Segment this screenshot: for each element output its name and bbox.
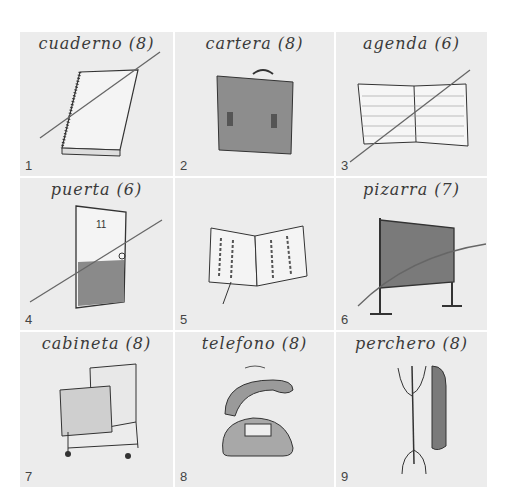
file-cabinet-icon bbox=[20, 332, 173, 487]
cell-notebook: cuaderno (8) 1 bbox=[20, 32, 173, 176]
cell-file-cabinet: cabineta (8) 7 bbox=[20, 332, 173, 487]
cell-planner: agenda (6) 3 bbox=[336, 32, 487, 176]
telephone-icon bbox=[175, 332, 334, 487]
cell-coat-rack: perchero (8) 9 bbox=[336, 332, 487, 487]
svg-text:11: 11 bbox=[96, 219, 107, 230]
cell-telephone: telefono (8) 8 bbox=[175, 332, 334, 487]
cell-number: 4 bbox=[25, 312, 32, 327]
cell-number: 1 bbox=[25, 158, 32, 173]
cell-number: 5 bbox=[180, 312, 187, 327]
cell-chalkboard: pizarra (7) 6 bbox=[336, 178, 487, 330]
cell-number: 6 bbox=[341, 312, 348, 327]
cell-open-book: 5 bbox=[175, 178, 334, 330]
vocabulary-grid: cuaderno (8) 1 cartera (8) 2 agenda (6) bbox=[20, 32, 487, 487]
cell-number: 8 bbox=[180, 469, 187, 484]
door-icon: 11 bbox=[20, 178, 173, 330]
cell-number: 3 bbox=[341, 158, 348, 173]
cell-number: 2 bbox=[180, 158, 187, 173]
cell-door: puerta (6) 11 4 bbox=[20, 178, 173, 330]
cell-number: 7 bbox=[25, 469, 32, 484]
briefcase-icon bbox=[175, 32, 334, 176]
planner-icon bbox=[336, 32, 487, 176]
chalkboard-icon bbox=[336, 178, 487, 330]
open-book-icon bbox=[175, 178, 334, 330]
cell-briefcase: cartera (8) 2 bbox=[175, 32, 334, 176]
notebook-icon bbox=[20, 32, 173, 176]
coat-rack-icon bbox=[336, 332, 487, 487]
cell-number: 9 bbox=[341, 469, 348, 484]
